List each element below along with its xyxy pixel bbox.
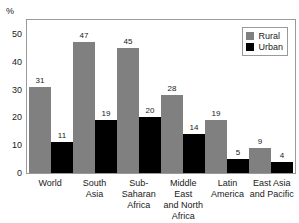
bar-column: 11	[51, 20, 73, 173]
x-axis-category-line: Middle East	[161, 178, 205, 200]
bar-column: 20	[139, 20, 161, 173]
legend-item-urban[interactable]: Urban	[246, 41, 283, 52]
x-axis-category-label: LatinAmerica	[205, 176, 249, 222]
x-axis: WorldSouthAsiaSub-SaharanAfricaMiddle Ea…	[26, 176, 296, 222]
x-axis-category-line: Sub-	[117, 178, 161, 189]
bar-value-label: 14	[190, 123, 199, 132]
bar-value-label: 11	[58, 131, 66, 140]
bar-urban[interactable]	[95, 120, 117, 173]
legend-item-rural[interactable]: Rural	[246, 30, 283, 41]
y-axis-tick-label: 50	[12, 29, 22, 38]
bar-rural[interactable]	[73, 42, 95, 173]
bar-group: 4520	[117, 20, 161, 173]
y-axis: 01020304050	[0, 19, 26, 174]
x-axis-category-line: Latin	[205, 178, 249, 189]
bar-group: 4719	[73, 20, 117, 173]
x-axis-category-label: Middle Eastand NorthAfrica	[161, 176, 205, 222]
x-axis-category-line: and North	[161, 200, 205, 211]
legend-label: Rural	[258, 31, 280, 41]
x-axis-category-label: Sub-SaharanAfrica	[117, 176, 161, 222]
bar-column: 14	[183, 20, 205, 173]
bar-value-label: 5	[236, 148, 240, 157]
x-axis-category-label: World	[28, 176, 72, 222]
chart-legend: RuralUrban	[242, 27, 288, 56]
bar-value-label: 19	[102, 109, 111, 118]
bar-rural[interactable]	[249, 148, 271, 173]
bar-rural[interactable]	[29, 87, 51, 173]
x-axis-category-line: World	[28, 178, 72, 189]
bar-group: 3111	[29, 20, 73, 173]
y-axis-tick-label: 40	[12, 57, 22, 66]
y-axis-tick-label: 20	[12, 113, 22, 122]
bar-column: 19	[205, 20, 227, 173]
bar-rural[interactable]	[117, 48, 139, 173]
bar-value-label: 28	[168, 84, 177, 93]
bar-value-label: 31	[36, 76, 45, 85]
bar-value-label: 20	[146, 106, 155, 115]
bar-column: 47	[73, 20, 95, 173]
bar-column: 31	[29, 20, 51, 173]
x-axis-category-line: Africa	[117, 200, 161, 211]
bar-column: 45	[117, 20, 139, 173]
y-axis-tick-label: 0	[17, 169, 22, 178]
legend-label: Urban	[258, 42, 283, 52]
bar-column: 19	[95, 20, 117, 173]
y-axis-unit-label: %	[6, 6, 14, 16]
x-axis-category-line: East Asia	[250, 178, 294, 189]
x-axis-category-label: SouthAsia	[72, 176, 116, 222]
bar-rural[interactable]	[205, 120, 227, 173]
legend-swatch-icon	[246, 32, 254, 40]
bar-urban[interactable]	[271, 162, 293, 173]
bar-value-label: 4	[280, 151, 284, 160]
plot-area: 311147194520281419594 RuralUrban	[26, 19, 296, 174]
bar-urban[interactable]	[227, 159, 249, 173]
bar-urban[interactable]	[183, 134, 205, 173]
y-axis-tick-label: 10	[12, 141, 22, 150]
x-axis-category-line: America	[205, 189, 249, 200]
bar-group: 2814	[161, 20, 205, 173]
x-axis-category-line: Africa	[161, 211, 205, 222]
y-axis-tick-label: 30	[12, 85, 22, 94]
x-axis-category-line: South	[72, 178, 116, 189]
bar-rural[interactable]	[161, 95, 183, 173]
bar-chart: % 01020304050 311147194520281419594 Rura…	[0, 0, 299, 223]
legend-swatch-icon	[246, 43, 254, 51]
x-axis-category-line: and Pacific	[250, 189, 294, 200]
bar-urban[interactable]	[51, 142, 73, 173]
bar-urban[interactable]	[139, 117, 161, 173]
x-axis-category-line: Asia	[72, 189, 116, 200]
bar-value-label: 45	[124, 37, 133, 46]
bar-column: 28	[161, 20, 183, 173]
bar-value-label: 19	[212, 109, 221, 118]
x-axis-category-label: East Asiaand Pacific	[250, 176, 294, 222]
bar-value-label: 47	[80, 31, 89, 40]
x-axis-category-line: Saharan	[117, 189, 161, 200]
bar-value-label: 9	[258, 137, 262, 146]
